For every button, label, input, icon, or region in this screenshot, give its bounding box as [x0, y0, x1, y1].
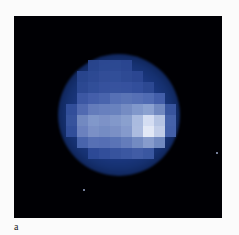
panel-label: a — [14, 222, 18, 232]
image-pixel — [88, 93, 99, 104]
image-pixel — [143, 148, 154, 159]
image-pixel — [77, 115, 88, 126]
image-pixel — [121, 126, 132, 137]
pixel-grid — [14, 16, 222, 218]
image-pixel — [121, 148, 132, 159]
image-pixel — [154, 115, 165, 126]
image-pixel — [121, 104, 132, 115]
image-pixel — [121, 82, 132, 93]
image-pixel — [88, 126, 99, 137]
image-pixel — [110, 82, 121, 93]
image-pixel — [154, 104, 165, 115]
image-pixel — [99, 104, 110, 115]
image-pixel — [88, 104, 99, 115]
image-pixel — [77, 82, 88, 93]
planet-image-frame — [14, 16, 222, 218]
moon-dot — [83, 189, 85, 191]
image-pixel — [99, 115, 110, 126]
image-pixel — [99, 126, 110, 137]
image-pixel — [121, 60, 132, 71]
moon-dot — [216, 152, 218, 154]
image-pixel — [154, 137, 165, 148]
image-pixel — [110, 60, 121, 71]
image-pixel — [132, 71, 143, 82]
image-pixel — [110, 104, 121, 115]
image-pixel — [99, 71, 110, 82]
image-pixel — [66, 126, 77, 137]
image-pixel — [110, 71, 121, 82]
image-pixel — [121, 93, 132, 104]
image-pixel — [88, 115, 99, 126]
image-pixel — [143, 82, 154, 93]
image-pixel — [121, 115, 132, 126]
image-pixel — [77, 137, 88, 148]
image-pixel — [77, 71, 88, 82]
image-pixel — [143, 115, 154, 126]
image-pixel — [132, 104, 143, 115]
image-pixel — [77, 104, 88, 115]
image-pixel — [99, 60, 110, 71]
image-pixel — [88, 71, 99, 82]
image-pixel — [99, 148, 110, 159]
image-pixel — [165, 104, 176, 115]
image-pixel — [110, 93, 121, 104]
image-pixel — [132, 82, 143, 93]
image-pixel — [88, 60, 99, 71]
image-pixel — [77, 126, 88, 137]
image-pixel — [99, 137, 110, 148]
image-pixel — [143, 104, 154, 115]
image-pixel — [165, 115, 176, 126]
image-pixel — [77, 93, 88, 104]
image-pixel — [88, 148, 99, 159]
image-pixel — [165, 126, 176, 137]
image-pixel — [110, 137, 121, 148]
image-pixel — [110, 148, 121, 159]
image-pixel — [143, 93, 154, 104]
image-pixel — [99, 93, 110, 104]
image-pixel — [99, 82, 110, 93]
image-pixel — [66, 104, 77, 115]
image-pixel — [66, 115, 77, 126]
image-pixel — [143, 126, 154, 137]
image-pixel — [132, 137, 143, 148]
image-pixel — [110, 126, 121, 137]
image-pixel — [132, 148, 143, 159]
image-pixel — [154, 93, 165, 104]
image-pixel — [143, 137, 154, 148]
image-pixel — [132, 115, 143, 126]
image-pixel — [132, 93, 143, 104]
image-pixel — [88, 82, 99, 93]
image-pixel — [88, 137, 99, 148]
image-pixel — [154, 126, 165, 137]
image-pixel — [121, 71, 132, 82]
image-pixel — [121, 137, 132, 148]
image-pixel — [110, 115, 121, 126]
image-pixel — [132, 126, 143, 137]
